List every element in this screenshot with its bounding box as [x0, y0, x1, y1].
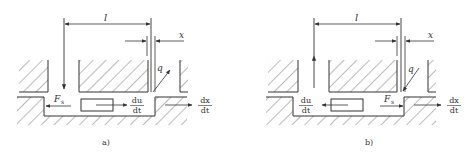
spool-vel-numerator: du [301, 96, 311, 105]
x-vel-denominator: dt [201, 106, 210, 115]
x-vel-denominator: dt [450, 106, 459, 115]
force-label: F [383, 94, 391, 104]
panel-a: l x q F s du dt dx dt a) [17, 12, 212, 147]
right-upper-wall [180, 60, 188, 92]
center-upper-block [79, 60, 148, 92]
spool-vel-numerator: du [132, 96, 142, 105]
caption-b: b) [365, 138, 373, 147]
force-subscript: s [61, 98, 64, 105]
x-vel-numerator: dx [449, 96, 459, 105]
force-label: F [53, 94, 61, 104]
spool-valve-diagram: l x q F s du dt dx dt a) [0, 0, 476, 158]
spool-vel-denominator: dt [133, 106, 142, 115]
length-label: l [355, 12, 358, 23]
center-upper-block [329, 60, 397, 92]
length-label: l [104, 12, 107, 23]
flow-label: q [157, 63, 163, 73]
flow-label: q [408, 64, 414, 74]
spool-vel-denominator: dt [302, 106, 311, 115]
force-subscript: s [391, 98, 394, 105]
left-upper-block [268, 60, 298, 92]
x-vel-numerator: dx [200, 96, 210, 105]
opening-label: x [428, 30, 433, 40]
flow-arrow [153, 70, 170, 92]
panel-b: l x q F s du dt dx dt b) [266, 12, 461, 147]
right-upper-wall [428, 60, 436, 92]
caption-a: a) [102, 138, 110, 147]
opening-label: x [179, 30, 184, 40]
left-upper-block [19, 60, 48, 92]
